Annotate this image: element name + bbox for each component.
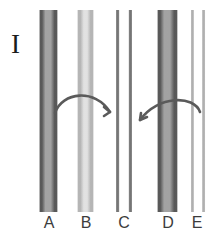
band-stripe bbox=[115, 10, 133, 212]
band-a bbox=[39, 10, 58, 212]
band-stripe bbox=[77, 10, 94, 212]
band-e bbox=[190, 10, 206, 212]
lane-label-c: C bbox=[116, 215, 132, 231]
panel-label-roman-one: I bbox=[11, 31, 20, 58]
lane-label-e: E bbox=[189, 215, 205, 231]
band-b bbox=[77, 10, 94, 212]
lane-label-b: B bbox=[78, 215, 94, 231]
band-d bbox=[157, 10, 178, 212]
arrow-head bbox=[140, 113, 147, 120]
band-stripe bbox=[157, 10, 178, 212]
band-stripe bbox=[39, 10, 58, 212]
lane-label-d: D bbox=[160, 215, 176, 231]
figure-panel: I ABCDE bbox=[0, 0, 224, 247]
arrow-head bbox=[104, 107, 110, 116]
band-c bbox=[115, 10, 133, 212]
band-stripe bbox=[190, 10, 206, 212]
lane-label-a: A bbox=[41, 215, 57, 231]
